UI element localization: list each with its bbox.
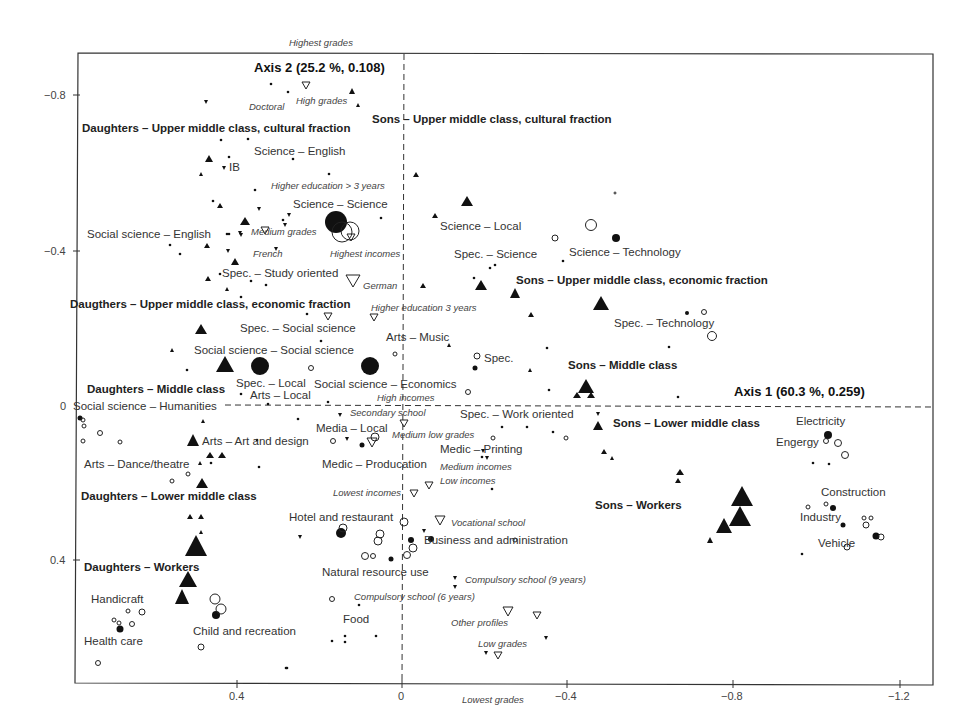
label-hotel-and-restaurant: Hotel and restaurant <box>289 511 394 523</box>
label-lowest-incomes: Lowest incomes <box>333 487 401 498</box>
label-construction: Construction <box>821 486 886 498</box>
x-tick-label: −0.4 <box>555 690 577 702</box>
label-business-and-administration: Business and administration <box>424 534 568 546</box>
label-low-grades: Low grades <box>478 638 527 649</box>
label-daughters-lower-middle-class: Daughters – Lower middle class <box>81 490 257 502</box>
label-compulsory-school-6-years: Compulsory school (6 years) <box>354 591 475 602</box>
axis1-title: Axis 1 (60.3 %, 0.259) <box>734 384 865 399</box>
axis1-dashed-line <box>225 405 933 407</box>
label-industry: Industry <box>800 511 841 523</box>
label-other-profiles: Other profiles <box>451 617 508 628</box>
axis2-title: Axis 2 (25.2 %, 0.108) <box>254 60 385 75</box>
mca-scatter-chart: −0.8 −0.4 0 0.4 0.4 0 −0.4 −0.8 −1.2 Hig… <box>0 0 955 726</box>
label-high-grades: High grades <box>296 95 347 106</box>
label-media-local: Media – Local <box>316 422 388 434</box>
label-arts-music: Arts – Music <box>386 331 450 343</box>
label-science-local: Science – Local <box>440 220 521 232</box>
label-medic-printing: Medic – Printing <box>440 443 522 455</box>
label-daughters-middle-class: Daughters – Middle class <box>87 383 225 395</box>
label-vocational-school: Vocational school <box>451 517 526 528</box>
label-sons-lower-middle-class: Sons – Lower middle class <box>613 417 760 429</box>
label-higher-education-3-years: Higher education 3 years <box>371 302 477 313</box>
label-handicraft: Handicraft <box>91 593 144 605</box>
label-social-science-humanities: Social science – Humanities <box>73 400 217 412</box>
y-tick-label: 0 <box>60 400 66 412</box>
label-spec-social-science: Spec. – Social science <box>240 322 356 334</box>
label-spec-technology: Spec. – Technology <box>614 317 714 329</box>
label-electricity: Electricity <box>796 415 845 427</box>
open-circles <box>81 192 884 666</box>
label-higher-education-over-3-years: Higher education > 3 years <box>271 180 385 191</box>
pole-label-bottom: Lowest grades <box>462 694 524 705</box>
label-medium-incomes: Medium incomes <box>440 461 512 472</box>
label-spec-science: Spec. – Science <box>454 248 537 260</box>
pole-label-top: Highest grades <box>289 37 353 48</box>
label-science-science: Science – Science <box>293 198 388 210</box>
label-low-incomes: Low incomes <box>440 475 496 486</box>
label-secondary-school: Secondary school <box>350 407 426 418</box>
plot-frame <box>75 53 933 685</box>
label-german: German <box>363 280 397 291</box>
label-sons-upper-middle-economic: Sons – Upper middle class, economic frac… <box>516 274 768 286</box>
label-sons-workers: Sons – Workers <box>595 499 682 511</box>
label-social-science-social-science: Social science – Social science <box>194 344 354 356</box>
label-doctoral: Doctoral <box>249 101 285 112</box>
label-highest-incomes: Highest incomes <box>330 248 400 259</box>
label-arts-art-and-design: Arts – Art and design <box>202 435 309 447</box>
label-child-and-recreation: Child and recreation <box>193 625 296 637</box>
label-social-science-english: Social science – English <box>87 228 211 240</box>
label-science-technology: Science – Technology <box>569 246 681 258</box>
label-medium-low-grades: Medium low grades <box>392 429 475 440</box>
label-natural-resource-use: Natural resource use <box>322 566 429 578</box>
label-sons-upper-middle-cultural: Sons – Upper middle class, cultural frac… <box>372 113 612 125</box>
axis2-dashed-line <box>402 54 404 684</box>
label-spec-study-oriented: Spec. – Study oriented <box>222 267 338 279</box>
x-tick-label: 0 <box>398 690 404 702</box>
label-spec-work-oriented: Spec. – Work oriented <box>460 408 574 420</box>
label-spec: Spec. <box>484 352 513 364</box>
y-tick-label: −0.8 <box>44 89 66 101</box>
label-health-care: Health care <box>84 635 143 647</box>
label-science-english: Science – English <box>254 145 345 157</box>
x-tick-label: 0.4 <box>229 690 244 702</box>
label-food: Food <box>343 613 369 625</box>
label-medium-grades: Medium grades <box>251 226 317 237</box>
label-spec-local: Spec. – Local <box>236 377 306 389</box>
label-high-incomes: High incomes <box>377 392 435 403</box>
y-tick-label: −0.4 <box>44 245 66 257</box>
label-vehicle: Vehicle <box>818 537 855 549</box>
label-arts-dance-theatre: Arts – Dance/theatre <box>84 458 189 470</box>
y-tick-label: 0.4 <box>50 554 65 566</box>
label-french: French <box>253 248 283 259</box>
label-medic-producation: Medic – Producation <box>322 458 427 470</box>
x-tick-label: −0.8 <box>721 690 743 702</box>
label-compulsory-school-9-years: Compulsory school (9 years) <box>465 574 586 585</box>
label-sons-middle-class: Sons – Middle class <box>568 359 677 371</box>
label-energy: Engergy <box>776 436 819 448</box>
label-social-science-economics: Social science – Economics <box>314 378 457 390</box>
label-daughters-upper-middle-cultural: Daughters – Upper middle class, cultural… <box>82 122 350 134</box>
label-ib: IB <box>229 161 240 173</box>
label-daughters-upper-middle-economic: Daugthers – Upper middle class, economic… <box>70 298 351 310</box>
x-tick-label: −1.2 <box>888 690 910 702</box>
label-arts-local: Arts – Local <box>250 389 311 401</box>
label-daughters-workers: Daughters – Workers <box>84 561 199 573</box>
